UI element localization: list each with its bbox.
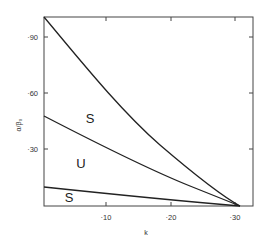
region-label-stable-upper: S (86, 111, 95, 126)
x-tick-label: ·30 (230, 213, 241, 222)
x-tick-label: ·20 (166, 213, 177, 222)
upper-boundary-curve (44, 17, 240, 206)
y-tick-label: ·30 (27, 145, 38, 154)
middle-boundary-curve (44, 116, 240, 206)
y-axis-label: α/β₀ (15, 118, 23, 131)
y-tick-label: ·60 (27, 89, 38, 98)
lower-boundary-curve (44, 187, 240, 206)
x-ticks-top (106, 17, 235, 21)
chart: ·10 ·20 ·30 ·90 ·60 ·30 k α/β₀ S U S (0, 0, 266, 242)
region-label-stable-lower: S (65, 190, 74, 205)
y-ticks-left (44, 37, 48, 149)
region-label-unstable: U (76, 156, 85, 171)
x-tick-label: ·10 (101, 213, 112, 222)
plot-frame (44, 17, 253, 206)
y-ticks-right (249, 37, 253, 149)
y-tick-label: ·90 (27, 33, 38, 42)
x-axis-label: k (144, 229, 148, 236)
